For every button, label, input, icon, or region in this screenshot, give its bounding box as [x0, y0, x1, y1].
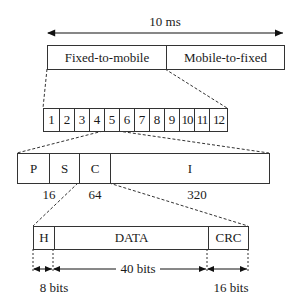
field-i: I [110, 154, 269, 183]
slot-10: 10 [179, 109, 194, 131]
slot-5: 5 [104, 109, 119, 131]
slot-11: 11 [194, 109, 209, 131]
slot-3: 3 [74, 109, 89, 131]
fixed-to-mobile-segment: Fixed-to-mobile [48, 46, 166, 69]
size-label-64: 64 [89, 187, 102, 203]
mobile-to-fixed-segment: Mobile-to-fixed [166, 46, 284, 69]
field-c: C [79, 154, 110, 183]
size-label-320: 320 [187, 187, 207, 203]
frame-box: Fixed-to-mobile Mobile-to-fixed [47, 45, 285, 70]
field-s: S [49, 154, 79, 183]
size-label-16: 16 [43, 187, 56, 203]
slot-12: 12 [209, 109, 227, 131]
slot-4: 4 [89, 109, 104, 131]
slot-6: 6 [119, 109, 134, 131]
data-bits-label: 40 bits [120, 261, 155, 277]
slot-8: 8 [149, 109, 164, 131]
slot-1: 1 [44, 109, 59, 131]
packet-header: H [34, 227, 54, 249]
duration-label: 10 ms [149, 14, 180, 30]
field-p: P [18, 154, 49, 183]
packet-row: H DATA CRC [33, 226, 249, 250]
slot-fields-row: P S C I [17, 153, 270, 184]
packet-data: DATA [54, 227, 208, 249]
slot-7: 7 [134, 109, 149, 131]
slot-2: 2 [59, 109, 74, 131]
header-bits-label: 8 bits [40, 280, 69, 296]
slot-9: 9 [164, 109, 179, 131]
crc-bits-label: 16 bits [213, 280, 248, 296]
packet-crc: CRC [208, 227, 248, 249]
slots-row: 1 2 3 4 5 6 7 8 9 10 11 12 [43, 108, 228, 132]
